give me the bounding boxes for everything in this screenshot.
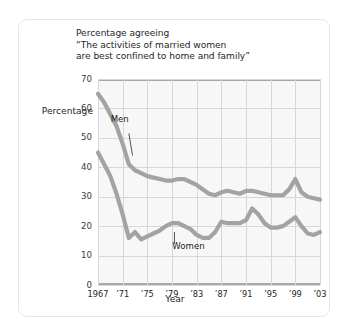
series-lines	[98, 79, 320, 285]
y-tick-10: 10	[62, 250, 92, 260]
y-tick-0: 0	[62, 280, 92, 290]
y-tick-20: 20	[62, 221, 92, 231]
gridline-y-0	[98, 285, 320, 286]
annotation-label-men: Men	[111, 114, 129, 124]
y-tick-60: 60	[62, 103, 92, 113]
y-tick-30: 30	[62, 191, 92, 201]
gridline-x-2003	[320, 79, 321, 285]
x-axis-title: Year	[19, 294, 331, 304]
plot-area	[98, 79, 320, 285]
annotation-leader-line-0	[129, 133, 133, 155]
y-tick-50: 50	[62, 132, 92, 142]
figure-card: Percentage agreeing “The activities of m…	[18, 19, 330, 317]
chart-title: Percentage agreeing “The activities of m…	[76, 28, 326, 63]
annotation-label-women: Women	[172, 241, 204, 251]
y-tick-70: 70	[62, 74, 92, 84]
y-tick-40: 40	[62, 162, 92, 172]
